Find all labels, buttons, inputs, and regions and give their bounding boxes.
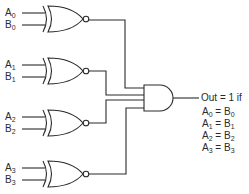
input-label-a1: A1 xyxy=(5,60,16,70)
xnor-gate-1 xyxy=(22,58,89,84)
input-label-b3: B3 xyxy=(5,175,16,185)
output-title: Out = 1 if xyxy=(201,92,242,104)
interconnect-wires xyxy=(89,20,144,174)
input-label-a0: A0 xyxy=(5,8,16,18)
xnor-gate-2 xyxy=(22,110,89,136)
xnor-gate-0 xyxy=(22,6,89,32)
and-gate xyxy=(144,85,199,111)
input-label-a3: A3 xyxy=(5,163,16,173)
xnor-gate-3 xyxy=(22,161,89,187)
comparator-diagram: A0 B0 A1 B1 A2 B2 A3 B3 Out = 1 if A0 = … xyxy=(0,0,249,194)
output-condition-1: A1 = B1 xyxy=(202,118,235,130)
output-condition-2: A2 = B2 xyxy=(202,130,235,142)
output-condition-0: A0 = B0 xyxy=(202,106,235,118)
output-condition-3: A3 = B3 xyxy=(202,142,235,154)
input-label-a2: A2 xyxy=(5,112,16,122)
input-label-b2: B2 xyxy=(5,124,16,134)
input-label-b0: B0 xyxy=(5,20,16,30)
input-label-b1: B1 xyxy=(5,72,16,82)
